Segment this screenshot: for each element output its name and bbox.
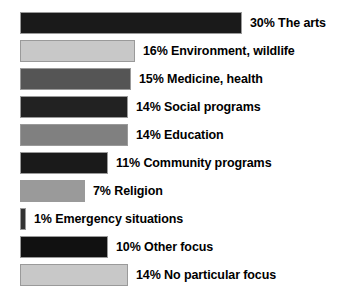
bar-religion bbox=[20, 180, 85, 202]
bar-label-community-programs: 11% Community programs bbox=[116, 152, 271, 174]
bar-row: 14% Social programs bbox=[20, 96, 261, 118]
bar-label-other-focus: 10% Other focus bbox=[116, 236, 213, 258]
bar-row: 7% Religion bbox=[20, 180, 163, 202]
bar-the-arts bbox=[20, 12, 242, 34]
bar-label-medicine-health: 15% Medicine, health bbox=[139, 68, 263, 90]
bar-row: 14% Education bbox=[20, 124, 224, 146]
bar-community-programs bbox=[20, 152, 108, 174]
bar-chart: 30% The arts 16% Environment, wildlife 1… bbox=[0, 0, 348, 293]
bar-environment-wildlife bbox=[20, 40, 135, 62]
bar-row: 1% Emergency situations bbox=[20, 208, 183, 230]
bar-row: 11% Community programs bbox=[20, 152, 271, 174]
bar-row: 16% Environment, wildlife bbox=[20, 40, 295, 62]
bar-label-environment-wildlife: 16% Environment, wildlife bbox=[143, 40, 295, 62]
bar-row: 10% Other focus bbox=[20, 236, 213, 258]
bar-row: 15% Medicine, health bbox=[20, 68, 263, 90]
bar-row: 14% No particular focus bbox=[20, 264, 276, 286]
bar-label-education: 14% Education bbox=[136, 124, 224, 146]
bar-label-social-programs: 14% Social programs bbox=[136, 96, 261, 118]
bar-other-focus bbox=[20, 236, 108, 258]
bar-medicine-health bbox=[20, 68, 131, 90]
bar-label-no-particular-focus: 14% No particular focus bbox=[136, 264, 276, 286]
bar-row: 30% The arts bbox=[20, 12, 326, 34]
bar-label-emergency-situations: 1% Emergency situations bbox=[34, 208, 183, 230]
bar-no-particular-focus bbox=[20, 264, 128, 286]
bar-label-religion: 7% Religion bbox=[93, 180, 163, 202]
bar-social-programs bbox=[20, 96, 128, 118]
bar-label-the-arts: 30% The arts bbox=[250, 12, 326, 34]
bar-emergency-situations bbox=[20, 208, 26, 230]
bar-education bbox=[20, 124, 128, 146]
